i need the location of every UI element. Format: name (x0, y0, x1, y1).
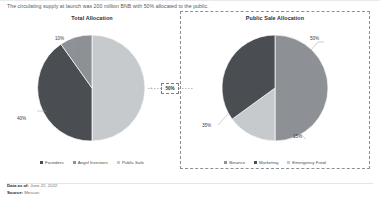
footer-source-row: Source: Messari (7, 190, 57, 196)
footer-date-key: Data as of: (7, 183, 29, 188)
left-chart-title: Total Allocation (8, 15, 176, 21)
legend-label-public-sale: Public Sale (122, 160, 144, 165)
legend-label-marketing: Marketing (259, 160, 278, 165)
slice-binance[interactable] (275, 35, 328, 141)
left-label-40pct: 40% (17, 116, 26, 121)
legend-label-angel-investors: Angel Investors (78, 160, 108, 165)
legend-label-binance: Binance (229, 160, 245, 165)
right-pie-svg (210, 29, 340, 147)
square-icon (254, 161, 257, 164)
public-sale-allocation-panel: Public Sale Allocation 50% 35% 15% (182, 11, 368, 171)
total-allocation-panel: Total Allocation 10% 40% (8, 11, 176, 171)
left-legend: Founders Angel Investors Public Sale (8, 160, 176, 165)
chart-page: The circulating supply at launch was 200… (0, 0, 380, 200)
square-icon (40, 161, 43, 164)
public-sale-callout: 50% (161, 83, 179, 94)
square-icon (73, 161, 76, 164)
footer-source-value: Messari (24, 190, 39, 195)
footer: Data as of: June 22, 2022 Source: Messar… (7, 183, 57, 196)
right-pie-chart: 50% 35% 15% (182, 29, 368, 147)
right-label-35pct: 35% (202, 123, 211, 128)
legend-item-founders[interactable]: Founders (40, 160, 64, 165)
square-icon (117, 161, 120, 164)
left-pie-chart: 10% 40% (8, 29, 176, 147)
legend-item-marketing[interactable]: Marketing (254, 160, 278, 165)
right-chart-title: Public Sale Allocation (182, 15, 368, 21)
right-label-15pct: 15% (293, 134, 302, 139)
bottom-divider (7, 183, 373, 184)
intro-text: The circulating supply at launch was 200… (7, 3, 209, 9)
legend-item-binance[interactable]: Binance (224, 160, 245, 165)
legend-label-emergency-fund: Emergency Fund (292, 160, 325, 165)
left-pie-svg (32, 29, 152, 147)
slice-public-sale[interactable] (92, 35, 145, 141)
top-divider (0, 0, 380, 1)
square-icon (287, 161, 290, 164)
legend-label-founders: Founders (45, 160, 64, 165)
callout-value: 50% (165, 86, 174, 91)
square-icon (224, 161, 227, 164)
footer-date-value: June 22, 2022 (30, 183, 57, 188)
legend-item-public-sale[interactable]: Public Sale (117, 160, 144, 165)
legend-item-emergency-fund[interactable]: Emergency Fund (287, 160, 325, 165)
footer-source-key: Source: (7, 190, 23, 195)
right-legend: Binance Marketing Emergency Fund (182, 160, 368, 165)
left-label-10pct: 10% (55, 36, 64, 41)
legend-item-angel-investors[interactable]: Angel Investors (73, 160, 108, 165)
right-label-50pct: 50% (310, 36, 319, 41)
